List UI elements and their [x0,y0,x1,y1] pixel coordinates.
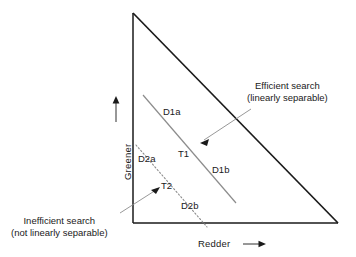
d1-line [143,95,236,203]
label-d2b: D2b [181,200,198,212]
inefficient-leader-line [120,190,156,213]
label-d1b: D1b [212,164,229,176]
callout-efficient-line1: Efficient search [255,80,320,91]
callout-inefficient-line2: (not linearly separable) [11,227,108,239]
callout-efficient-search: Efficient search (linearly separable) [247,80,328,104]
callout-inefficient-line1: Inefficient search [23,215,95,226]
label-t2: T2 [161,180,172,192]
label-d1a: D1a [163,106,180,118]
efficient-leader-line [204,109,251,140]
y-axis-label: Greener [122,144,134,180]
inefficient-callout-leader [120,187,160,213]
efficient-callout-leader [200,109,251,146]
label-d2a: D2a [138,153,155,165]
label-t1: T1 [178,148,189,160]
callout-inefficient-search: Inefficient search (not linearly separab… [11,215,108,239]
inefficient-arrowhead-icon [151,187,160,194]
x-axis-label: Redder [198,238,230,250]
greener-axis-arrow-icon [113,96,120,122]
redder-axis-arrow-icon [243,241,266,247]
callout-efficient-line2: (linearly separable) [247,92,328,104]
figure-canvas: Greener Redder D1a T1 D1b D2a T2 D2b Eff… [0,0,356,257]
